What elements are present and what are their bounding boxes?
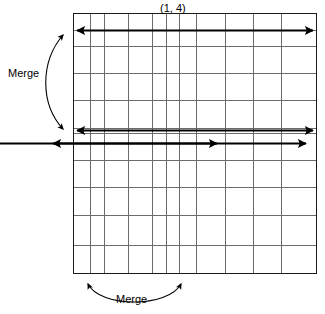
figure-canvas	[0, 0, 325, 314]
merge-label-left: Merge	[8, 68, 39, 79]
merge-curve-left	[46, 35, 63, 129]
coordinate-label: (1, 4)	[160, 3, 186, 14]
merge-grid-figure: (1, 4) Merge Merge	[0, 0, 325, 314]
merge-label-bottom: Merge	[116, 294, 147, 305]
